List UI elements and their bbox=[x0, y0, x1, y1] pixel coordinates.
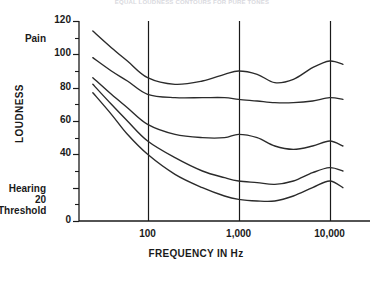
curve-contour-110-phon bbox=[93, 31, 343, 84]
y-axis-label: LOUDNESS bbox=[14, 79, 25, 149]
curve-contour-40-phon bbox=[93, 84, 343, 184]
y-tick-label-60: 60 bbox=[45, 115, 71, 125]
y-tick-label-120: 120 bbox=[45, 15, 71, 25]
axis-ticks bbox=[73, 22, 79, 222]
plot-canvas bbox=[0, 0, 384, 283]
x-axis-label: FREQUENCY IN Hz bbox=[116, 248, 276, 259]
x-tick-label-100: 100 bbox=[123, 228, 173, 239]
y-tick-label-80: 80 bbox=[45, 82, 71, 92]
vertical-gridlines bbox=[149, 21, 331, 221]
y-tick-label-0: 0 bbox=[45, 215, 71, 225]
chart-figure: EQUAL LOUDNESS CONTOURS FOR PURE TONES 0… bbox=[0, 0, 384, 283]
y-tick-label-40: 40 bbox=[45, 148, 71, 158]
annotation-hearing-threshold: Hearing 20 Threshold bbox=[0, 183, 46, 216]
curve-contour-60-phon bbox=[93, 78, 343, 150]
annotation-pain: Pain bbox=[2, 33, 46, 44]
y-tick-label-100: 100 bbox=[45, 48, 71, 58]
x-tick-label-10000: 10,000 bbox=[305, 228, 355, 239]
x-tick-label-1000: 1,000 bbox=[214, 228, 264, 239]
loudness-contour-curves bbox=[93, 31, 343, 201]
axes-group bbox=[79, 21, 370, 221]
